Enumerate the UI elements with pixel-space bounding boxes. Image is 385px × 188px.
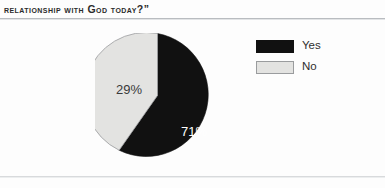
legend-swatch-yes-icon: [256, 40, 294, 53]
bottom-divider-shadow: [0, 177, 385, 178]
pie-label-no: 29%: [116, 83, 142, 96]
legend-item-no[interactable]: No: [256, 57, 366, 77]
pie-chart: 29% 71%: [95, 33, 220, 158]
chart-legend: Yes No: [256, 36, 366, 78]
legend-item-yes[interactable]: Yes: [256, 36, 366, 56]
chart-figure: relationship with God today?” 29% 71% Ye…: [0, 0, 385, 188]
legend-label-no: No: [302, 61, 317, 73]
page-title: relationship with God today?”: [4, 4, 149, 15]
pie-label-yes: 71%: [181, 125, 207, 138]
pie-chart-svg: [95, 33, 220, 158]
legend-label-yes: Yes: [302, 40, 321, 52]
figure-title-row: relationship with God today?”: [4, 1, 382, 17]
pie-chart-area: 29% 71% Yes No: [0, 20, 385, 176]
legend-swatch-no-icon: [256, 61, 294, 74]
